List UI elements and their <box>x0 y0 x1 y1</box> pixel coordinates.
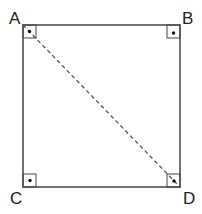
diagonal-ad <box>23 25 180 187</box>
right-angle-marker-b <box>167 25 180 38</box>
right-angle-marker-c <box>23 174 36 187</box>
vertex-label-d: D <box>183 190 195 207</box>
vertex-label-b: B <box>182 10 193 27</box>
square-diagram <box>0 0 202 214</box>
vertex-label-c: C <box>10 190 22 207</box>
right-angle-marker-d <box>167 174 180 187</box>
vertex-label-a: A <box>9 10 20 27</box>
